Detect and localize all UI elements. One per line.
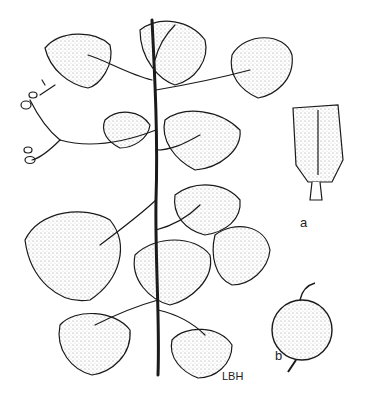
figure-label-a: a [300, 215, 307, 230]
caption-fragment [0, 401, 369, 408]
botanical-illustration [0, 0, 369, 408]
artist-signature: LBH [222, 370, 243, 382]
figure-label-b: b [275, 348, 282, 363]
